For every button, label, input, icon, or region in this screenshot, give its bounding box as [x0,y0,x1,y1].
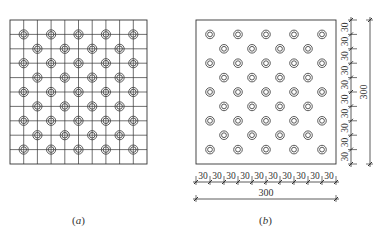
pile-marker [60,102,69,111]
pile-circle [304,131,313,140]
pile-circle [234,117,243,126]
pile-circle [220,131,229,140]
pile-marker [19,145,28,154]
pile-marker [33,131,42,140]
pile-circle [290,88,299,97]
plate-border [196,20,336,164]
caption-a-letter: a [76,214,82,226]
pile-marker [101,116,110,125]
pile-circle [290,59,299,68]
pile-circle [234,88,243,97]
dim-label-right-segment: 30 [340,65,350,75]
dim-label-bottom-segment: 30 [282,171,292,181]
dim-label-bottom-segment: 30 [226,171,236,181]
pile-circle [276,73,285,82]
dim-label-bottom-segment: 30 [254,171,264,181]
pile-marker [88,131,97,140]
pile-marker [19,30,28,39]
pile-marker [47,116,56,125]
caption-a: (a) [72,214,85,226]
pile-marker [47,145,56,154]
pile-circle [234,59,243,68]
pile-circle [262,88,271,97]
pile-marker [115,131,124,140]
pile-marker [101,30,110,39]
dim-label-right-segment: 30 [340,123,350,133]
dim-label-right-segment: 30 [340,22,350,32]
pile-circle [304,102,313,111]
dim-label-right-segment: 30 [340,152,350,162]
pile-marker [129,59,138,68]
pile-marker [74,145,83,154]
pile-marker [47,87,56,96]
pile-marker [33,102,42,111]
dim-label-bottom-segment: 30 [240,171,250,181]
dim-label-right-total: 300 [358,85,369,100]
pile-marker [129,145,138,154]
pile-circle [234,30,243,39]
pile-marker [60,73,69,82]
dim-label-right-segment: 30 [340,51,350,61]
dim-label-right-segment: 30 [340,37,350,47]
pile-circle [318,88,327,97]
dim-label-bottom-segment: 30 [296,171,306,181]
pile-circle [234,145,243,154]
pile-circle [262,117,271,126]
dim-label-bottom-segment: 30 [310,171,320,181]
pile-marker [88,102,97,111]
pile-marker [74,30,83,39]
pile-circle [220,45,229,54]
pile-circle [206,145,215,154]
pile-marker [129,30,138,39]
pile-marker [101,87,110,96]
pile-circle [220,102,229,111]
pile-circle [304,73,313,82]
dim-label-right-segment: 30 [340,109,350,119]
pile-marker [115,73,124,82]
pile-circle [318,145,327,154]
pile-circle [206,117,215,126]
pile-circle [206,88,215,97]
dim-label-right-segment: 30 [340,94,350,104]
pile-circle [248,131,257,140]
pile-marker [115,44,124,53]
pile-marker [88,73,97,82]
pile-circle [290,117,299,126]
pile-circle [318,30,327,39]
pile-circle [262,145,271,154]
pile-marker [115,102,124,111]
pile-marker [88,44,97,53]
pile-marker [74,87,83,96]
pile-circle [248,45,257,54]
pile-circle [276,131,285,140]
pile-circle [276,45,285,54]
pile-marker [101,59,110,68]
pile-circle [262,59,271,68]
caption-b-letter: b [263,214,269,226]
panel-b-layout [196,20,336,164]
dim-label-bottom-segment: 30 [212,171,222,181]
pile-circle [206,59,215,68]
pile-marker [33,44,42,53]
dim-label-right-segment: 30 [340,137,350,147]
pile-circle [276,102,285,111]
pile-marker [74,59,83,68]
pile-marker [60,44,69,53]
pile-marker [19,116,28,125]
dim-label-bottom-segment: 30 [198,171,208,181]
pile-circle [248,73,257,82]
pile-marker [33,73,42,82]
pile-marker [19,87,28,96]
dim-label-bottom-segment: 30 [268,171,278,181]
pile-circle [318,117,327,126]
pile-marker [47,30,56,39]
pile-circle [206,30,215,39]
dim-label-right-segment: 30 [340,80,350,90]
pile-marker [101,145,110,154]
pile-circle [262,30,271,39]
pile-circle [248,102,257,111]
pile-marker [129,87,138,96]
pile-marker [74,116,83,125]
panel-a-grid [10,20,147,164]
pile-circle [220,73,229,82]
